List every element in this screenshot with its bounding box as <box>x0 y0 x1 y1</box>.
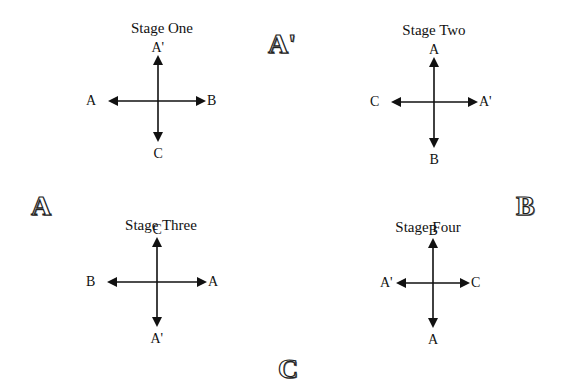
stage-one-title: Stage One <box>131 21 193 36</box>
arrow-left-icon <box>391 97 401 107</box>
corner-label-a: A <box>31 192 51 220</box>
stage-two-label-left: C <box>370 95 379 109</box>
stage-three-label-left: B <box>86 275 95 289</box>
stage-two-label-right: A' <box>479 95 492 109</box>
stage-four-label-left: A' <box>380 276 393 290</box>
stage-three-axes <box>107 237 207 327</box>
stage-three-label-right: A <box>208 275 218 289</box>
arrow-up-icon <box>429 57 439 67</box>
stage-two-label-top: A <box>429 43 439 57</box>
arrow-right-icon <box>468 97 478 107</box>
stage-two-label-bottom: B <box>430 153 439 167</box>
arrow-left-icon <box>108 96 118 106</box>
arrow-down-icon <box>153 132 163 142</box>
stage-one-label-left: A <box>86 94 96 108</box>
stage-three-label-top: C <box>153 223 162 237</box>
arrow-down-icon <box>428 318 438 328</box>
corner-label-b: B <box>516 192 535 220</box>
stage-two-title: Stage Two <box>402 23 465 38</box>
arrow-right-icon <box>196 96 206 106</box>
arrow-right-icon <box>197 277 207 287</box>
arrow-left-icon <box>107 277 117 287</box>
stage-four-axes <box>396 238 470 328</box>
stage-one-label-right: B <box>207 94 216 108</box>
arrow-down-icon <box>429 138 439 148</box>
stage-four-label-top: B <box>429 224 438 238</box>
arrow-up-icon <box>152 237 162 247</box>
stage-two-axes <box>391 57 478 148</box>
stage-four-label-right: C <box>471 276 480 290</box>
arrow-right-icon <box>460 278 470 288</box>
corner-label-a-prime: A' <box>268 30 296 58</box>
arrow-down-icon <box>152 317 162 327</box>
stage-one-axes <box>108 55 206 142</box>
corner-label-c: C <box>278 355 298 383</box>
arrow-up-icon <box>428 238 438 248</box>
stage-four-label-bottom: A <box>428 333 438 347</box>
stage-one-label-top: A' <box>152 41 165 55</box>
stage-one-label-bottom: C <box>154 147 163 161</box>
stage-three-label-bottom: A' <box>151 332 164 346</box>
arrow-left-icon <box>396 278 406 288</box>
arrow-up-icon <box>153 55 163 65</box>
